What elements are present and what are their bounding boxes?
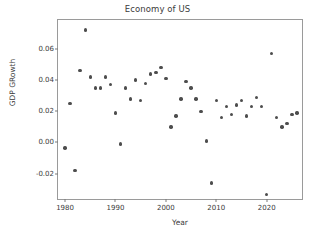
data-point xyxy=(199,110,202,113)
data-point xyxy=(225,105,228,108)
y-tick-label: 0.06 xyxy=(38,45,54,53)
data-point xyxy=(210,181,213,184)
y-tick-mark xyxy=(55,173,58,174)
data-point xyxy=(285,122,288,125)
x-tick-mark xyxy=(266,199,267,202)
y-tick-label: 0.00 xyxy=(38,138,54,146)
data-point xyxy=(260,105,263,108)
x-tick-label: 1980 xyxy=(56,204,74,212)
x-tick-mark xyxy=(165,199,166,202)
data-point xyxy=(250,105,253,108)
data-point xyxy=(174,114,177,117)
x-axis-label: Year xyxy=(57,218,303,227)
x-tick-label: 2000 xyxy=(157,204,175,212)
y-tick-mark xyxy=(55,48,58,49)
data-point xyxy=(194,97,197,100)
plot-area: -0.020.000.020.040.06 198019902000201020… xyxy=(57,19,303,200)
data-point xyxy=(245,114,248,117)
data-point xyxy=(220,116,223,119)
data-point xyxy=(189,86,192,89)
data-point xyxy=(149,72,152,75)
data-point xyxy=(154,71,157,74)
data-point xyxy=(240,99,243,102)
data-point xyxy=(104,75,107,78)
data-points-layer xyxy=(58,20,302,199)
data-point xyxy=(119,142,122,145)
data-point xyxy=(89,75,92,78)
data-point xyxy=(84,28,87,31)
data-point xyxy=(78,69,81,72)
data-point xyxy=(295,111,298,114)
chart-title: Economy of US xyxy=(0,4,315,14)
data-point xyxy=(205,139,208,142)
data-point xyxy=(164,77,167,80)
data-point xyxy=(109,83,112,86)
scatter-plot-figure: Economy of US GDP GRowth -0.020.000.020.… xyxy=(0,0,315,237)
data-point xyxy=(99,86,102,89)
y-tick-mark xyxy=(55,80,58,81)
data-point xyxy=(280,125,283,128)
y-tick-mark xyxy=(55,142,58,143)
data-point xyxy=(94,86,97,89)
data-point xyxy=(68,102,71,105)
data-point xyxy=(290,113,293,116)
data-point xyxy=(184,80,187,83)
x-tick-label: 2020 xyxy=(258,204,276,212)
data-point xyxy=(129,97,132,100)
x-tick-label: 1990 xyxy=(107,204,125,212)
data-point xyxy=(215,99,218,102)
data-point xyxy=(124,86,127,89)
x-tick-mark xyxy=(115,199,116,202)
data-point xyxy=(255,96,258,99)
data-point xyxy=(265,193,268,196)
data-point xyxy=(159,66,162,69)
data-point xyxy=(114,111,117,114)
data-point xyxy=(139,99,142,102)
y-tick-mark xyxy=(55,111,58,112)
y-tick-label: -0.02 xyxy=(36,170,54,178)
x-tick-label: 2010 xyxy=(207,204,225,212)
data-point xyxy=(144,82,147,85)
data-point xyxy=(63,146,66,149)
data-point xyxy=(235,103,238,106)
data-point xyxy=(270,52,273,55)
data-point xyxy=(73,169,76,172)
x-tick-mark xyxy=(216,199,217,202)
y-axis-label: GDP GRowth xyxy=(8,53,17,113)
data-point xyxy=(275,116,278,119)
x-tick-mark xyxy=(65,199,66,202)
data-point xyxy=(179,97,182,100)
y-tick-label: 0.02 xyxy=(38,107,54,115)
data-point xyxy=(134,78,137,81)
data-point xyxy=(169,125,172,128)
data-point xyxy=(230,113,233,116)
y-tick-label: 0.04 xyxy=(38,76,54,84)
